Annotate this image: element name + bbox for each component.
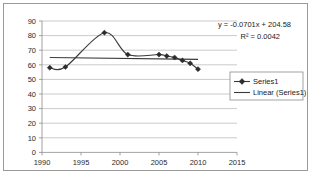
trendline-r-squared: R² = 0.0042 bbox=[241, 32, 280, 41]
trendline-equation: y = -0.0701x + 204.58 bbox=[218, 20, 291, 29]
x-tick-label: 2000 bbox=[112, 158, 129, 167]
y-tick-label: 10 bbox=[28, 134, 36, 143]
chart-plot-area: 90 80 70 60 50 40 30 20 10 0 1990 1995 2… bbox=[4, 4, 307, 170]
legend-label: Linear (Series1) bbox=[253, 88, 307, 97]
legend-label: Series1 bbox=[253, 77, 278, 86]
x-tick-label: 1995 bbox=[73, 158, 90, 167]
y-tick-label: 80 bbox=[28, 31, 36, 40]
x-axis-labels: 1990 1995 2000 2005 2010 2015 bbox=[34, 158, 246, 167]
y-tick-label: 40 bbox=[28, 90, 36, 99]
data-point-marker bbox=[164, 53, 169, 58]
data-point-marker bbox=[156, 52, 161, 57]
data-point-marker bbox=[102, 30, 107, 35]
y-tick-label: 50 bbox=[28, 75, 36, 84]
series1-line bbox=[50, 33, 198, 70]
y-tick-label: 60 bbox=[28, 61, 36, 70]
x-tick-label: 2005 bbox=[151, 158, 168, 167]
x-axis-ticks bbox=[42, 152, 237, 155]
data-point-marker bbox=[180, 58, 185, 63]
y-axis-labels: 90 80 70 60 50 40 30 20 10 0 bbox=[28, 17, 36, 157]
chart-legend: Series1 Linear (Series1) bbox=[230, 72, 307, 100]
x-tick-label: 2015 bbox=[229, 158, 246, 167]
data-point-marker bbox=[47, 65, 52, 70]
y-tick-label: 0 bbox=[32, 148, 36, 157]
chart-frame: 90 80 70 60 50 40 30 20 10 0 1990 1995 2… bbox=[3, 3, 308, 171]
y-axis-ticks bbox=[39, 21, 42, 152]
gridlines bbox=[42, 21, 237, 138]
y-tick-label: 20 bbox=[28, 119, 36, 128]
x-tick-label: 2010 bbox=[190, 158, 207, 167]
data-point-marker bbox=[125, 52, 130, 57]
y-tick-label: 30 bbox=[28, 104, 36, 113]
x-tick-label: 1990 bbox=[34, 158, 51, 167]
y-tick-label: 70 bbox=[28, 46, 36, 55]
y-tick-label: 90 bbox=[28, 17, 36, 26]
